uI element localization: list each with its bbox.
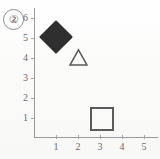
- x-tick-label-5: 5: [138, 142, 150, 152]
- x-tick-1: [56, 135, 57, 139]
- data-point-open-square[interactable]: [90, 107, 114, 131]
- y-tick-label-3: 3: [16, 73, 28, 83]
- x-tick-label-4: 4: [116, 142, 128, 152]
- y-tick-2: [31, 98, 35, 99]
- y-tick-label-6: 6: [16, 13, 28, 23]
- triangle-icon: [69, 48, 88, 67]
- x-tick-4: [122, 135, 123, 139]
- y-tick-label-1: 1: [16, 113, 28, 123]
- y-tick-label-4: 4: [16, 53, 28, 63]
- x-tick-label-2: 2: [72, 142, 84, 152]
- x-tick-2: [78, 135, 79, 139]
- plot-area: ② 6 5 4 3 2 1 1 2 3 4 5: [0, 0, 160, 159]
- y-tick-1: [31, 118, 35, 119]
- x-tick-label-3: 3: [94, 142, 106, 152]
- y-tick-6: [31, 18, 35, 19]
- data-point-open-triangle[interactable]: [69, 48, 88, 67]
- x-tick-label-1: 1: [50, 142, 62, 152]
- y-tick-label-2: 2: [16, 93, 28, 103]
- y-tick-3: [31, 78, 35, 79]
- x-axis-line: [34, 137, 158, 138]
- y-tick-4: [31, 58, 35, 59]
- x-tick-3: [100, 135, 101, 139]
- x-tick-5: [144, 135, 145, 139]
- y-tick-5: [31, 38, 35, 39]
- y-tick-label-5: 5: [16, 33, 28, 43]
- scatter-plot-figure: ② 6 5 4 3 2 1 1 2 3 4 5: [0, 0, 160, 159]
